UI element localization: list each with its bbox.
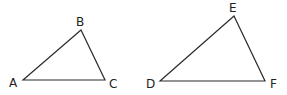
vertex-label-c: C bbox=[109, 77, 117, 91]
triangle-def bbox=[160, 16, 265, 81]
vertex-label-e: E bbox=[229, 1, 237, 15]
vertex-label-d: D bbox=[146, 77, 155, 91]
vertex-label-a: A bbox=[9, 76, 18, 90]
triangles-diagram: A B C D E F bbox=[0, 0, 287, 95]
triangle-abc bbox=[23, 30, 105, 80]
vertex-label-f: F bbox=[270, 77, 277, 91]
vertex-label-b: B bbox=[76, 15, 84, 29]
